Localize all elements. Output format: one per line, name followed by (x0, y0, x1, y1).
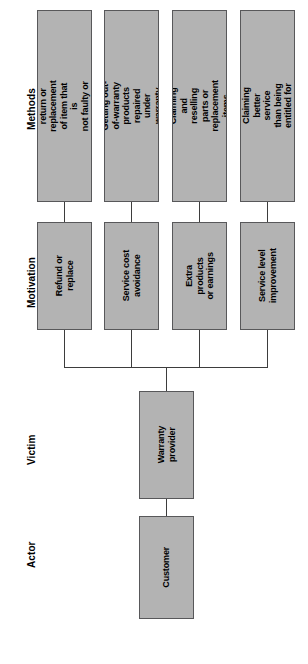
lane-label-methods: Methods (26, 88, 37, 130)
connector-method-3 (199, 202, 200, 222)
method-box-4-label: Claiming better service than being entit… (241, 79, 294, 132)
method-box-4[interactable]: Claiming better service than being entit… (240, 10, 295, 202)
motivation-box-2-label: Service cost avoidance (121, 250, 142, 303)
motivation-box-1[interactable]: Refund or replace (37, 222, 92, 330)
method-box-3[interactable]: Claiming and reselling parts or replacem… (172, 10, 227, 202)
lane-label-actor: Actor (26, 541, 37, 568)
connector-victim-to-actor (166, 499, 167, 516)
connector-motivation-4-drop (267, 330, 268, 367)
victim-box-label: Warranty provider (156, 419, 177, 472)
method-box-2[interactable]: Getting out-of-warranty products repaire… (104, 10, 159, 202)
connector-motivation-2-drop (131, 330, 132, 367)
connector-motivation-3-drop (199, 330, 200, 367)
motivation-box-4-label: Service level improvement (257, 249, 278, 304)
lane-label-motivation: Motivation (26, 257, 37, 308)
actor-box-label: Customer (161, 541, 172, 594)
diagram-canvas: Methods Motivation Victim Actor Unjustif… (0, 0, 308, 664)
motivation-box-3-label: Extra products or earnings (184, 249, 216, 302)
connector-method-4 (267, 202, 268, 222)
method-box-3-label: Claiming and reselling parts or replacem… (172, 80, 227, 133)
method-box-1[interactable]: Unjustified return or replacement of ite… (37, 10, 92, 202)
motivation-box-4[interactable]: Service level improvement (240, 222, 295, 330)
connector-method-2 (131, 202, 132, 222)
connector-method-1 (64, 202, 65, 222)
connector-motivation-1-drop (64, 330, 65, 367)
motivation-box-1-label: Refund or replace (54, 250, 75, 303)
lane-label-victim: Victim (26, 435, 37, 465)
victim-box[interactable]: Warranty provider (139, 391, 194, 499)
motivation-box-2[interactable]: Service cost avoidance (104, 222, 159, 330)
motivation-box-3[interactable]: Extra products or earnings (172, 222, 227, 330)
method-box-1-label: Unjustified return or replacement of ite… (37, 79, 92, 132)
connector-bus-to-victim (166, 367, 167, 391)
method-box-2-label: Getting out-of-warranty products repaire… (104, 80, 159, 133)
actor-box[interactable]: Customer (139, 516, 194, 619)
